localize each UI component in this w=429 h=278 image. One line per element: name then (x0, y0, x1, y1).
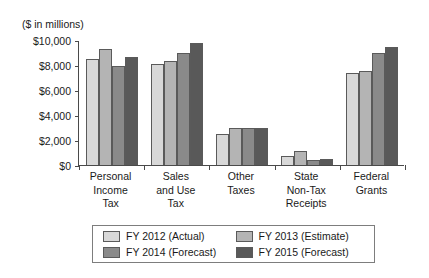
y-axis-tick-mark (75, 116, 79, 117)
bar (307, 160, 320, 165)
chart-legend: FY 2012 (Actual)FY 2013 (Estimate)FY 201… (92, 225, 375, 263)
legend-label: FY 2012 (Actual) (126, 230, 205, 242)
bar-group (83, 40, 141, 165)
bar (216, 134, 229, 165)
legend-color-swatch (236, 247, 253, 258)
y-axis-tick-label: $0 (59, 160, 71, 172)
x-axis-category-label: State Non-Tax Receipts (286, 170, 327, 211)
legend-label: FY 2014 (Forecast) (126, 246, 216, 258)
bar (255, 128, 268, 165)
legend-entry: FY 2013 (Estimate) (236, 230, 369, 242)
x-axis-category-labels: Personal Income TaxSales and Use TaxOthe… (78, 170, 404, 218)
bar-chart-figure: ($ in millions) $0$2,000$4,000$6,000$8,0… (0, 0, 429, 278)
x-axis-category-label: Sales and Use Tax (156, 170, 195, 211)
y-axis-tick-label: $8,000 (39, 60, 71, 72)
x-axis-tick-mark (405, 165, 406, 170)
bar (359, 71, 372, 165)
y-axis-tick-mark (75, 91, 79, 92)
legend-color-swatch (103, 231, 120, 242)
x-axis-category-label: Federal Grants (354, 170, 390, 197)
bar (86, 59, 99, 165)
legend-color-swatch (236, 231, 253, 242)
legend-color-swatch (103, 247, 120, 258)
x-axis-category-label: Other Taxes (227, 170, 254, 197)
y-axis-tick-mark (75, 141, 79, 142)
bar (294, 151, 307, 165)
bar (112, 66, 125, 165)
bar (125, 57, 138, 165)
bar (177, 53, 190, 166)
legend-label: FY 2015 (Forecast) (259, 246, 349, 258)
legend-entry: FY 2014 (Forecast) (103, 246, 236, 258)
y-axis-tick-mark (75, 41, 79, 42)
bar-group (343, 40, 401, 165)
bar (346, 73, 359, 165)
y-axis-tick-labels: $0$2,000$4,000$6,000$8,000$10,000 (0, 41, 71, 166)
bar (99, 49, 112, 165)
x-axis-category-label: Personal Income Tax (90, 170, 131, 211)
y-axis-tick-label: $4,000 (39, 110, 71, 122)
bar-group (278, 40, 336, 165)
bar (164, 61, 177, 165)
bar (372, 53, 385, 166)
y-axis-tick-label: $2,000 (39, 135, 71, 147)
axis-unit-label: ($ in millions) (22, 18, 84, 30)
plot-area (78, 41, 404, 166)
y-axis-tick-label: $6,000 (39, 85, 71, 97)
legend-entry: FY 2015 (Forecast) (236, 246, 369, 258)
legend-entry: FY 2012 (Actual) (103, 230, 236, 242)
legend-label: FY 2013 (Estimate) (259, 230, 349, 242)
bar-group (148, 40, 206, 165)
y-axis-tick-mark (75, 66, 79, 67)
bar-group (213, 40, 271, 165)
bar (229, 128, 242, 165)
y-axis-tick-label: $10,000 (33, 35, 71, 47)
bar (151, 64, 164, 165)
bar (242, 128, 255, 165)
bar (281, 156, 294, 165)
bar (320, 159, 333, 165)
bar (385, 47, 398, 165)
bar (190, 43, 203, 166)
